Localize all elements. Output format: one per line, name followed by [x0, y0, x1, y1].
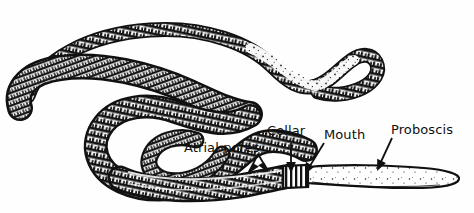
acorn-worm-figure: Atrial pores Collar Mouth Proboscis — [0, 0, 474, 213]
worm-illustration — [0, 0, 474, 213]
label-atrial-pores: Atrial pores — [184, 141, 260, 154]
label-proboscis: Proboscis — [391, 123, 453, 136]
proboscis-arrow — [378, 138, 392, 169]
label-collar: Collar — [267, 124, 305, 137]
label-mouth: Mouth — [324, 128, 365, 141]
worm-collar — [283, 165, 308, 188]
worm-proboscis — [308, 165, 459, 188]
